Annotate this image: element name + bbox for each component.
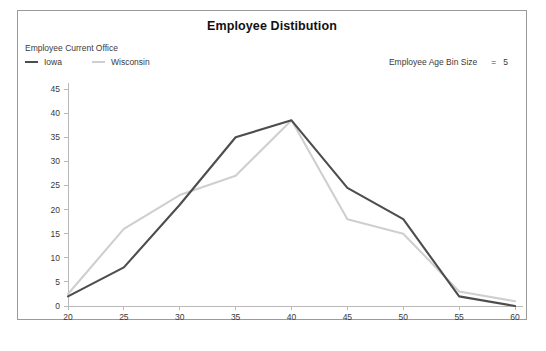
- series-lines: [68, 120, 515, 306]
- y-tick-label: 30: [51, 156, 61, 166]
- y-tick-label: 40: [51, 108, 61, 118]
- y-tick-label: 25: [51, 180, 61, 190]
- series-line-iowa: [68, 120, 515, 306]
- x-tick-label: 50: [399, 312, 409, 321]
- x-tick-label: 30: [175, 312, 185, 321]
- x-tick-label: 25: [119, 312, 129, 321]
- y-tick-label: 35: [51, 132, 61, 142]
- x-tick-label: 35: [231, 312, 241, 321]
- x-tick-label: 40: [287, 312, 297, 321]
- y-axis: 051015202530354045: [51, 83, 68, 311]
- series-line-wisconsin: [68, 120, 515, 301]
- chart-frame: Employee Distibution Employee Current Of…: [17, 10, 527, 320]
- x-tick-label: 60: [510, 312, 520, 321]
- y-tick-label: 0: [55, 301, 60, 311]
- x-tick-label: 55: [454, 312, 464, 321]
- x-tick-label: 20: [63, 312, 73, 321]
- x-tick-label: 45: [343, 312, 353, 321]
- y-tick-label: 20: [51, 205, 61, 215]
- y-tick-label: 5: [55, 277, 60, 287]
- x-axis: 202530354045505560: [63, 306, 523, 321]
- y-tick-label: 45: [51, 84, 61, 94]
- y-tick-label: 15: [51, 229, 61, 239]
- plot-area: 051015202530354045 202530354045505560 Ag…: [18, 11, 528, 321]
- y-tick-label: 10: [51, 253, 61, 263]
- plot-svg: 051015202530354045 202530354045505560 Ag…: [18, 11, 528, 321]
